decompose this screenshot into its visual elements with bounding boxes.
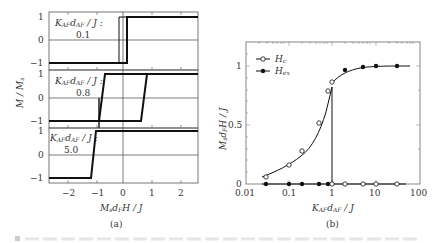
legend-hc: Hc xyxy=(274,54,287,64)
subplot-a2: KAFdAF / J : 0.8 xyxy=(49,70,198,128)
subplot-a3: KAFdAF / J : 5.0 xyxy=(49,128,198,183)
svg-text:0: 0 xyxy=(38,35,44,45)
param-value-a3: 5.0 xyxy=(64,145,79,155)
svg-text:100: 100 xyxy=(410,188,427,198)
svg-text:1: 1 xyxy=(38,12,44,22)
svg-text:0.01: 0.01 xyxy=(235,188,255,198)
svg-text:−1: −1 xyxy=(30,173,43,183)
open-circle-icon xyxy=(261,57,265,61)
svg-text:−1: −1 xyxy=(30,116,43,126)
svg-text:2: 2 xyxy=(178,188,184,198)
x-tick-labels-a: −2 −1 0 1 2 xyxy=(62,188,184,198)
svg-text:1: 1 xyxy=(38,69,44,79)
figure: KAFdAF / J : 0.1 KAFdAF / J : 0.8 KAFdAF… xyxy=(0,0,438,243)
y-tick-labels-a: 1 0 −1 1 0 −1 1 0 −1 xyxy=(30,12,44,183)
panel-label-a: (a) xyxy=(110,219,122,229)
filled-circle-icon xyxy=(261,69,265,73)
svg-text:0.5: 0.5 xyxy=(228,120,243,130)
param-value-a1: 0.1 xyxy=(76,30,90,40)
param-label-a2: KAFdAF / J : xyxy=(54,76,103,86)
legend-hex: Hex xyxy=(274,66,290,76)
x-axis-label-b: KAFdAF / J xyxy=(311,203,355,213)
y-tick-labels-b: 1 0.5 0 xyxy=(228,61,243,189)
x-axis-label-a: MsdFH / J xyxy=(99,203,144,213)
y-ticks-b xyxy=(246,54,420,172)
panel-b: Hc Hex 1 0.5 0 0.01 0.1 1 10 100 KAFdAF … xyxy=(218,42,427,229)
svg-text:1: 1 xyxy=(329,188,335,198)
y-axis-label-b: MsdFH / J xyxy=(218,106,228,151)
svg-text:1: 1 xyxy=(236,61,242,71)
param-value-a2: 0.8 xyxy=(76,88,91,98)
cropped-caption xyxy=(15,236,420,241)
subplot-a1: KAFdAF / J : 0.1 xyxy=(49,12,198,70)
svg-text:1: 1 xyxy=(38,126,44,136)
param-label-a3: KAFdAF / J : xyxy=(49,133,98,143)
svg-text:−1: −1 xyxy=(30,58,43,68)
hc-curve xyxy=(262,87,332,177)
legend-b: Hc Hex xyxy=(256,54,290,76)
svg-text:1: 1 xyxy=(149,188,155,198)
x-tick-labels-b: 0.01 0.1 1 10 100 xyxy=(235,188,427,198)
svg-text:0.1: 0.1 xyxy=(282,188,296,198)
svg-text:0: 0 xyxy=(38,150,44,160)
svg-text:−2: −2 xyxy=(62,188,75,198)
y-axis-label-a: M / Ms xyxy=(15,78,25,109)
panel-a: KAFdAF / J : 0.1 KAFdAF / J : 0.8 KAFdAF… xyxy=(15,12,198,229)
svg-text:10: 10 xyxy=(369,188,381,198)
panel-label-b: (b) xyxy=(326,219,339,229)
svg-text:−1: −1 xyxy=(91,188,104,198)
svg-text:0: 0 xyxy=(38,93,44,103)
plot-frame-b xyxy=(246,42,420,184)
svg-text:0: 0 xyxy=(120,188,126,198)
param-label-a1: KAFdAF / J : xyxy=(54,18,103,28)
